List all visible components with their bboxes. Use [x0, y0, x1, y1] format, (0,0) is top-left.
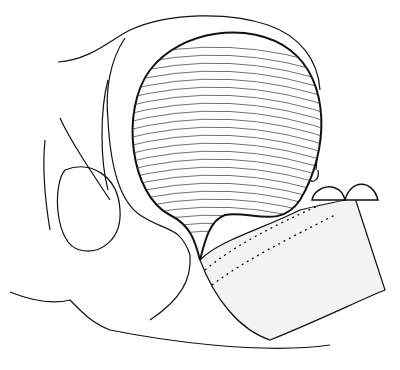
illustration: [0, 0, 400, 370]
right-lobes: [312, 184, 378, 200]
anatomical-drawing: [0, 0, 400, 370]
tissue-band: [200, 198, 385, 340]
